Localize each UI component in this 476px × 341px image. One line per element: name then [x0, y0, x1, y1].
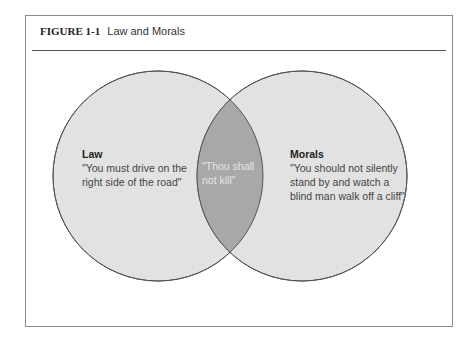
morals-text: Morals "You should not silently stand by… — [290, 147, 410, 203]
law-heading: Law — [82, 147, 192, 161]
intersection-text: "Thou shall not kill" — [202, 159, 262, 187]
intersection-quote: "Thou shall not kill" — [202, 160, 254, 186]
morals-quote: "You should not silently stand by and wa… — [290, 162, 405, 202]
law-quote: "You must drive on the right side of the… — [82, 162, 187, 188]
law-text: Law "You must drive on the right side of… — [82, 147, 192, 189]
morals-heading: Morals — [290, 147, 410, 161]
